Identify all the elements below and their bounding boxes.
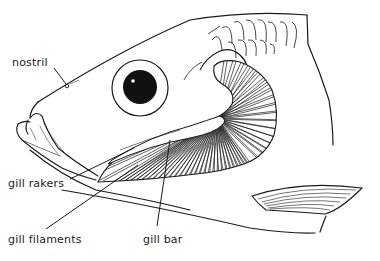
- pectoral-fin: [252, 185, 362, 214]
- eye: [112, 60, 168, 116]
- label-gill-filaments: gill filaments: [8, 234, 82, 245]
- fish-head-diagram: [0, 0, 380, 261]
- label-gill-rakers: gill rakers: [8, 178, 64, 189]
- label-gill-bar: gill bar: [143, 234, 183, 245]
- label-nostril: nostril: [12, 57, 48, 68]
- scales: [208, 20, 297, 58]
